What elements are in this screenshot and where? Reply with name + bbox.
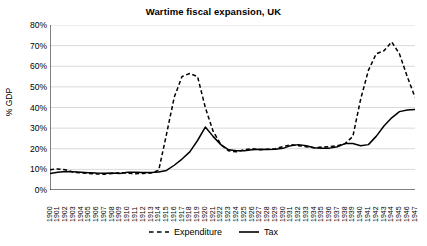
y-tick-label: 80%	[5, 21, 47, 30]
y-tick-label: 30%	[5, 124, 47, 133]
x-axis-tick-labels: 1900190119021903190419051906190719081909…	[50, 192, 415, 222]
x-tick-label: 1915	[162, 206, 169, 222]
chart-legend: ExpenditureTax	[0, 221, 427, 243]
x-tick-label: 1904	[77, 206, 84, 222]
x-tick-label: 1946	[403, 206, 410, 222]
legend-swatch-tax	[239, 228, 259, 236]
x-tick-label: 1929	[271, 206, 278, 222]
x-tick-label: 1930	[279, 206, 286, 222]
x-tick-label: 1942	[372, 206, 379, 222]
x-tick-label: 1902	[61, 206, 68, 222]
x-tick-label: 1939	[348, 206, 355, 222]
y-tick-label: 0%	[5, 186, 47, 195]
legend-label-tax: Tax	[264, 228, 278, 237]
chart-title: Wartime fiscal expansion, UK	[0, 6, 427, 17]
x-tick-label: 1918	[185, 206, 192, 222]
x-tick-label: 1921	[209, 206, 216, 222]
x-tick-label: 1933	[302, 206, 309, 222]
x-tick-label: 1931	[286, 206, 293, 222]
x-tick-label: 1927	[255, 206, 262, 222]
x-tick-label: 1923	[224, 206, 231, 222]
y-tick-label: 70%	[5, 42, 47, 51]
x-tick-label: 1936	[325, 206, 332, 222]
x-tick-label: 1906	[92, 206, 99, 222]
y-tick-label: 40%	[5, 104, 47, 113]
x-tick-label: 1903	[69, 206, 76, 222]
series-line-expenditure	[50, 42, 415, 174]
x-tick-label: 1908	[108, 206, 115, 222]
x-tick-label: 1922	[216, 206, 223, 222]
x-tick-label: 1932	[294, 206, 301, 222]
y-axis-tick-labels: 0%10%20%30%40%50%60%70%80%	[0, 25, 47, 190]
chart-container: Wartime fiscal expansion, UK % GDP 0%10%…	[0, 0, 427, 246]
x-tick-label: 1940	[356, 206, 363, 222]
x-tick-label: 1935	[317, 206, 324, 222]
x-tick-label: 1913	[147, 206, 154, 222]
legend-swatch-expenditure	[149, 228, 169, 236]
x-tick-label: 1917	[178, 206, 185, 222]
x-tick-label: 1928	[263, 206, 270, 222]
gridlines	[50, 25, 415, 190]
x-tick-label: 1916	[170, 206, 177, 222]
plot-area	[50, 25, 415, 190]
x-tick-label: 1909	[115, 206, 122, 222]
x-tick-label: 1924	[232, 206, 239, 222]
legend-item-expenditure[interactable]: Expenditure	[149, 228, 222, 237]
x-tick-label: 1907	[100, 206, 107, 222]
x-tick-label: 1947	[411, 206, 418, 222]
y-tick-label: 50%	[5, 83, 47, 92]
x-tick-label: 1937	[333, 206, 340, 222]
x-tick-label: 1926	[248, 206, 255, 222]
x-tick-label: 1938	[341, 206, 348, 222]
series-lines	[50, 42, 415, 174]
x-tick-label: 1925	[240, 206, 247, 222]
y-tick-label: 20%	[5, 145, 47, 154]
legend-label-expenditure: Expenditure	[174, 228, 222, 237]
y-tick-label: 60%	[5, 62, 47, 71]
x-tick-label: 1914	[154, 206, 161, 222]
x-tick-label: 1920	[201, 206, 208, 222]
x-tick-label: 1910	[123, 206, 130, 222]
x-tick-label: 1905	[84, 206, 91, 222]
x-tick-label: 1901	[53, 206, 60, 222]
x-tick-label: 1934	[310, 206, 317, 222]
x-tick-label: 1941	[364, 206, 371, 222]
x-tick-label: 1945	[395, 206, 402, 222]
x-tick-label: 1944	[387, 206, 394, 222]
x-tick-label: 1900	[46, 206, 53, 222]
x-tick-label: 1911	[131, 207, 138, 222]
x-tick-label: 1919	[193, 206, 200, 222]
legend-item-tax[interactable]: Tax	[239, 228, 278, 237]
plot-svg	[50, 25, 415, 190]
series-line-tax	[50, 110, 415, 174]
x-tick-label: 1912	[139, 206, 146, 222]
x-tick-label: 1943	[380, 206, 387, 222]
y-tick-label: 10%	[5, 165, 47, 174]
